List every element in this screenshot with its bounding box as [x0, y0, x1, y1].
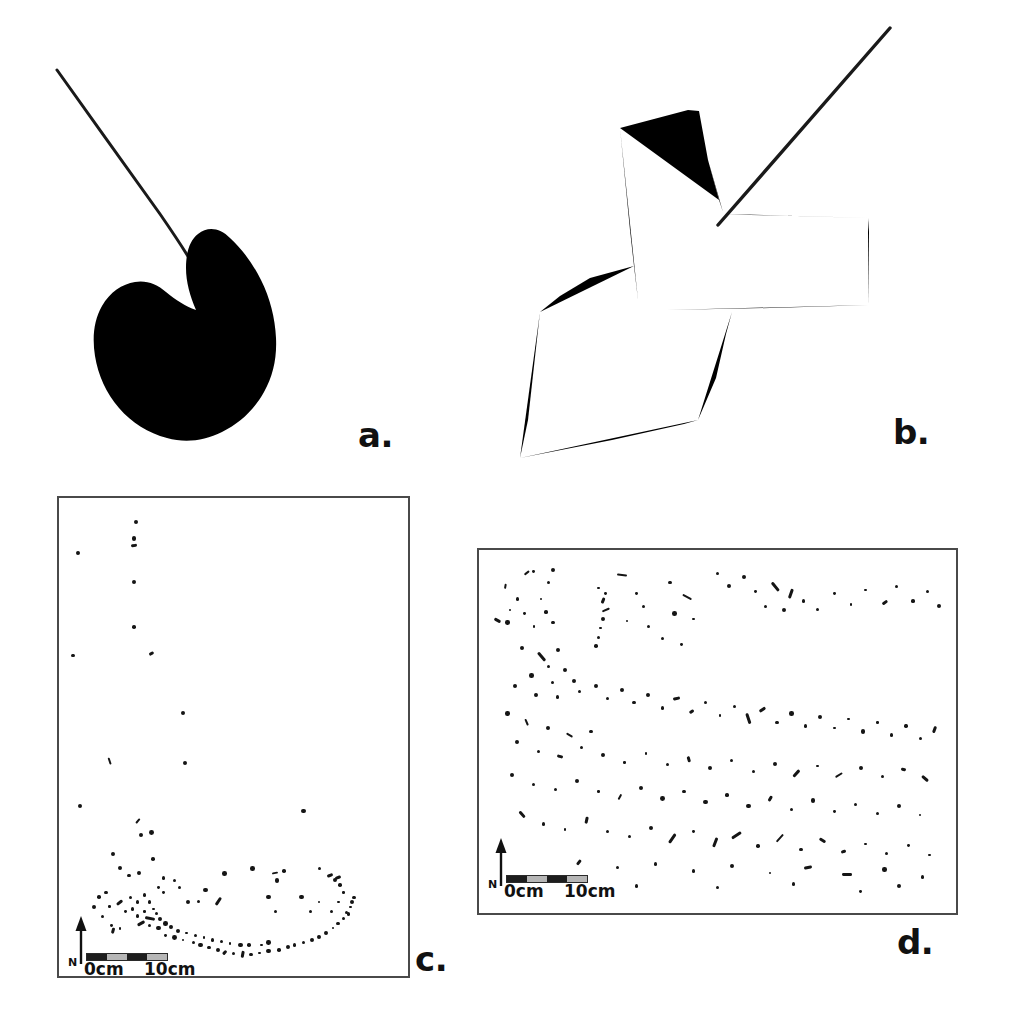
panel-letter-b: b. — [893, 415, 929, 449]
plot-point — [580, 746, 583, 749]
plot-point — [537, 750, 540, 753]
feature-outline-b-right-vertical — [868, 218, 869, 305]
plot-dash — [835, 772, 843, 778]
plot-dash — [731, 831, 741, 839]
plot-point — [597, 587, 600, 590]
plot-point — [802, 599, 806, 603]
plot-point — [594, 684, 599, 689]
plot-point — [118, 866, 122, 870]
plot-dash — [135, 818, 140, 824]
plot-dash — [770, 581, 779, 591]
plot-point — [859, 766, 863, 770]
plot-point — [173, 879, 176, 882]
plot-point — [551, 621, 555, 625]
plot-point — [249, 953, 253, 957]
plot-point — [282, 869, 286, 873]
plot-point — [132, 580, 136, 584]
plot-dash — [881, 599, 888, 605]
plot-point — [811, 798, 816, 803]
plot-point — [302, 941, 306, 945]
plot-dash — [518, 811, 526, 819]
plot-point — [716, 886, 719, 889]
panel-b: b. — [470, 0, 1014, 480]
plot-point — [336, 922, 340, 926]
plot-point — [876, 812, 879, 815]
plot-point — [505, 620, 509, 624]
plot-point — [542, 822, 546, 826]
plot-point — [330, 910, 334, 914]
plot-point — [921, 875, 925, 879]
plot-point — [928, 854, 931, 857]
plot-point — [708, 766, 712, 770]
panel-letter-d: d. — [897, 925, 933, 959]
plot-point — [556, 695, 560, 699]
plot-point — [704, 701, 707, 704]
plot-point — [572, 679, 576, 683]
plot-dash — [841, 873, 851, 877]
plot-point — [301, 809, 306, 814]
plot-point — [111, 852, 115, 856]
plot-point — [601, 753, 605, 757]
plot-point — [71, 654, 75, 658]
plot-dash — [504, 584, 507, 590]
plot-point — [881, 775, 884, 778]
plot-dash — [921, 775, 929, 783]
plot-point — [149, 830, 154, 835]
plot-point — [730, 864, 735, 869]
plot-point — [148, 900, 151, 903]
plot-point — [742, 575, 746, 579]
plot-point — [594, 644, 598, 648]
plot-point — [152, 908, 155, 911]
plot-point — [816, 765, 819, 768]
plot-point — [309, 910, 312, 913]
plot-dash — [682, 594, 692, 601]
plot-point — [599, 627, 602, 630]
plot-point — [232, 952, 235, 955]
plot-dash — [688, 709, 694, 714]
plot-point — [534, 693, 538, 697]
plot-dash — [240, 951, 244, 958]
plot-dash — [792, 769, 800, 778]
plot-point — [509, 609, 512, 612]
plot-point — [682, 790, 686, 794]
plot-point — [606, 830, 609, 833]
panel-letter-a: a. — [358, 418, 393, 452]
plot-point — [129, 896, 132, 899]
plot-point — [104, 891, 108, 895]
plot-point — [349, 906, 352, 909]
plot-point — [782, 608, 786, 612]
plot-point — [790, 808, 794, 812]
scale-label-start-d: 0cm — [504, 883, 544, 900]
plot-dash — [775, 834, 784, 843]
plot-point — [157, 886, 160, 889]
plot-point — [76, 551, 80, 555]
plot-point — [544, 610, 548, 614]
panel-c-point-layer — [59, 498, 408, 976]
plot-point — [275, 878, 280, 883]
ranging-pole-line-b — [718, 28, 890, 225]
panel-a: a. — [0, 0, 470, 480]
plot-point — [310, 938, 315, 943]
plot-point — [186, 900, 190, 904]
plot-point — [654, 862, 658, 866]
plot-point — [754, 590, 757, 593]
plot-point — [626, 620, 629, 623]
plot-point — [692, 618, 695, 621]
plot-point — [646, 693, 650, 697]
plot-point — [510, 773, 514, 777]
plot-point — [564, 828, 567, 831]
plot-point — [540, 598, 543, 601]
plot-point — [578, 690, 581, 693]
plot-dash — [222, 949, 228, 955]
plot-point — [833, 592, 836, 595]
plot-point — [332, 927, 335, 930]
scale-group-d: N 0cm 10cm — [488, 836, 638, 898]
plot-point — [861, 729, 865, 733]
plot-point — [551, 568, 555, 572]
plot-point — [864, 589, 867, 592]
plot-dash — [326, 873, 332, 878]
plot-dash — [566, 732, 573, 737]
plot-point — [139, 833, 143, 837]
plot-dash — [149, 651, 155, 656]
plot-point — [773, 762, 778, 767]
